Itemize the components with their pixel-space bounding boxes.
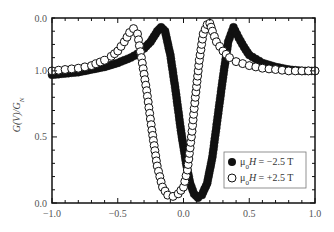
x-tick-label: −1.0 — [43, 208, 61, 219]
y-tick-label: 0.5 — [35, 131, 48, 142]
y-axis-title: G(V)/GN — [11, 97, 26, 132]
legend: μ0H = −2.5 T μ0H = +2.5 T — [224, 152, 306, 188]
y-tick-label: 1.0 — [35, 65, 48, 76]
x-tick-label: −0.5 — [109, 208, 127, 219]
legend-open-marker-icon — [228, 174, 236, 182]
x-axis-tick-labels: −1.0−0.50.00.51.0 — [43, 208, 321, 219]
x-tick-label: 0.0 — [177, 208, 190, 219]
x-tick-label: 0.5 — [243, 208, 256, 219]
y-axis-tick-labels: 0.00.51.00.0 — [35, 13, 48, 209]
x-tick-label: 1.0 — [309, 208, 322, 219]
chart-canvas: −1.0−0.50.00.51.0 0.00.51.00.0 G(V)/GN μ… — [0, 0, 334, 232]
y-tick-label: 0.0 — [35, 198, 48, 209]
legend-filled-marker-icon — [228, 158, 236, 166]
y-tick-label: 0.0 — [35, 13, 48, 24]
